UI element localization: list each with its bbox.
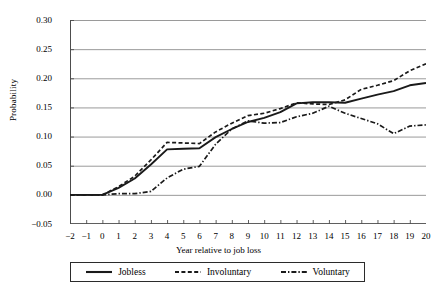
legend-label: Voluntary	[313, 267, 350, 277]
series-line-involuntary	[70, 64, 426, 195]
y-tick-label: 0.05	[18, 161, 52, 170]
legend-label: Involuntary	[207, 267, 251, 277]
x-tick-label: 20	[416, 232, 436, 241]
chart-figure: Probability 0.300.250.200.150.100.050.00…	[0, 0, 437, 299]
y-tick-label: 0.20	[18, 74, 52, 83]
y-tick-label: 0.00	[18, 190, 52, 199]
legend-label: Jobless	[118, 267, 145, 277]
plot-area	[70, 20, 426, 224]
series-line-jobless	[70, 83, 426, 195]
series-canvas	[70, 20, 426, 224]
y-tick-label: 0.15	[18, 103, 52, 112]
x-axis-title: Year relative to job loss	[0, 245, 437, 255]
legend: JoblessInvoluntaryVoluntary	[70, 262, 365, 282]
y-tick-label: −0.05	[18, 220, 52, 229]
legend-item-involuntary[interactable]: Involuntary	[174, 267, 251, 277]
legend-swatch-dash-dot	[280, 268, 308, 276]
legend-swatch-solid	[85, 268, 113, 276]
y-tick-label: 0.25	[18, 45, 52, 54]
y-tick-label: 0.10	[18, 132, 52, 141]
y-axis-title: Probability	[8, 60, 18, 140]
series-line-voluntary	[70, 106, 426, 195]
legend-item-jobless[interactable]: Jobless	[85, 267, 145, 277]
legend-swatch-dashed	[174, 268, 202, 276]
legend-item-voluntary[interactable]: Voluntary	[280, 267, 350, 277]
y-tick-label: 0.30	[18, 16, 52, 25]
